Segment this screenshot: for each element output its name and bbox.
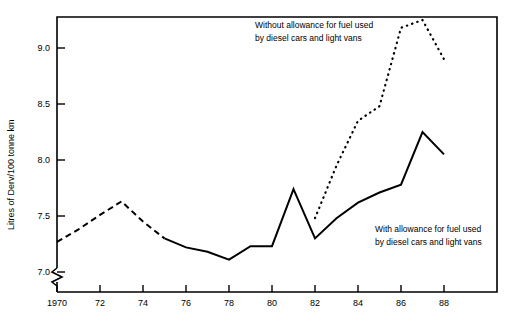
y-tick-label-9-0: 9.0 <box>37 43 50 53</box>
y-axis-title: Litres of Derv/100 tonne km <box>6 119 16 230</box>
annotation-with-allowance-line1: With allowance for fuel used <box>375 224 482 234</box>
x-tick-label-76: 76 <box>181 298 191 308</box>
y-tick-label-8-0: 8.0 <box>37 155 50 165</box>
annotation-without-allowance-line1: Without allowance for fuel used <box>255 20 373 30</box>
x-tick-label-82: 82 <box>310 298 320 308</box>
y-tick-label-8-5: 8.5 <box>37 99 50 109</box>
x-tick-label-72: 72 <box>95 298 105 308</box>
x-tick-label-80: 80 <box>267 298 277 308</box>
annotation-with-allowance-line2: by diesel cars and light vans <box>375 237 482 247</box>
plot-frame <box>57 17 497 292</box>
x-tick-marks <box>57 285 444 292</box>
x-tick-label-74: 74 <box>138 298 148 308</box>
x-tick-label-86: 86 <box>396 298 406 308</box>
x-tick-label-78: 78 <box>224 298 234 308</box>
annotation-without-allowance-line2: by diesel cars and light vans <box>255 33 362 43</box>
x-tick-label-84: 84 <box>353 298 363 308</box>
chart-figure: 9.0 8.5 8.0 7.5 7.0 Litres of Derv/100 t… <box>0 0 513 331</box>
line-chart-canvas: 9.0 8.5 8.0 7.5 7.0 Litres of Derv/100 t… <box>0 0 513 331</box>
x-tick-label-1970: 1970 <box>47 298 67 308</box>
x-tick-label-88: 88 <box>439 298 449 308</box>
y-tick-label-7-0: 7.0 <box>37 267 50 277</box>
series-with-allowance-dashed-segment <box>57 201 165 241</box>
series-without-allowance <box>315 20 444 218</box>
y-tick-label-7-5: 7.5 <box>37 211 50 221</box>
